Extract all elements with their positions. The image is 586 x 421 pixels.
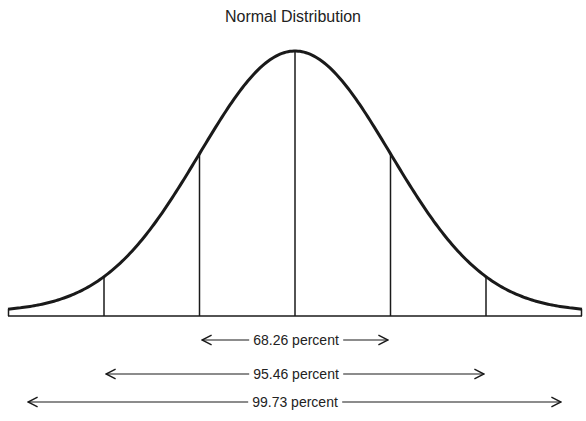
label-68-percent: 68.26 percent — [249, 332, 343, 348]
label-99-percent: 99.73 percent — [248, 394, 342, 410]
label-95-percent: 95.46 percent — [249, 366, 343, 382]
sigma-marker-lines — [9, 51, 582, 316]
normal-distribution-plot — [0, 0, 586, 421]
